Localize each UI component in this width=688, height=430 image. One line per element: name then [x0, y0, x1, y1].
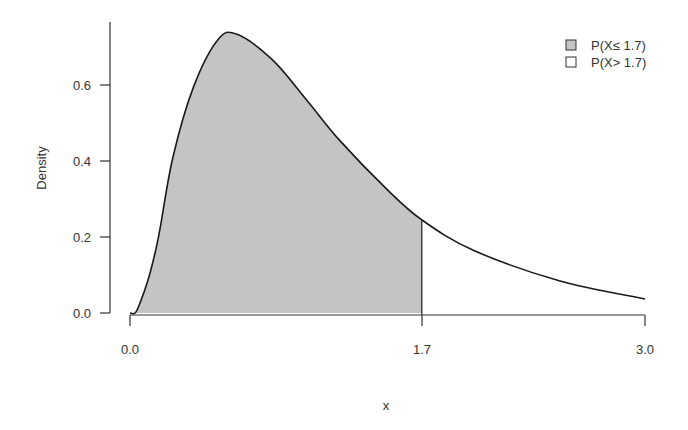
y-tick-label: 0.6 — [73, 78, 91, 93]
y-tick-label: 0.2 — [73, 230, 91, 245]
legend: P(X≤ 1.7) P(X> 1.7) — [566, 38, 646, 70]
shaded-area-left-of-threshold — [130, 32, 422, 314]
legend-swatch-shaded — [566, 40, 576, 50]
legend-swatch-unshaded — [566, 57, 576, 67]
x-tick-label: 0.0 — [121, 342, 139, 357]
x-tick-label: 3.0 — [636, 342, 654, 357]
y-tick-label: 0.0 — [73, 306, 91, 321]
y-axis-title: Density — [34, 146, 49, 190]
x-axis: 0.0 1.7 3.0 x — [121, 315, 654, 413]
x-axis-title: x — [383, 398, 390, 413]
legend-label-shaded: P(X≤ 1.7) — [591, 38, 646, 53]
legend-label-unshaded: P(X> 1.7) — [591, 55, 646, 70]
y-tick-label: 0.4 — [73, 154, 91, 169]
density-chart: 0.0 0.2 0.4 0.6 Density 0.0 1.7 3.0 x P(… — [0, 0, 688, 430]
y-axis: 0.0 0.2 0.4 0.6 Density — [34, 22, 110, 321]
x-tick-label: 1.7 — [413, 342, 431, 357]
